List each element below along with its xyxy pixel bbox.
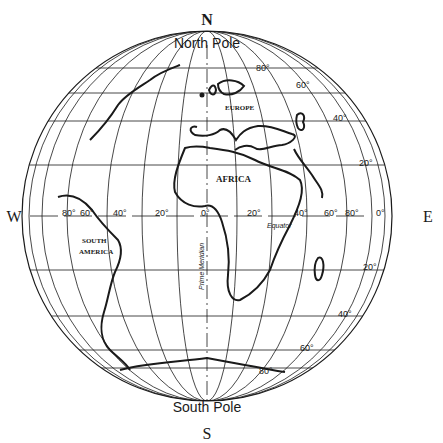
lon-label-60w: 60° [80, 208, 94, 218]
lon-label-0: 0° [201, 208, 210, 218]
compass-east: E [423, 208, 433, 225]
lat-label-60n: 60° [296, 80, 310, 90]
lon-label-0-edge: 0° [376, 208, 385, 218]
lat-label-20n: 20° [359, 158, 373, 168]
lat-label-40s: 40° [338, 309, 352, 319]
lon-label-80e: 80° [345, 208, 359, 218]
lon-label-40e: 40° [294, 208, 308, 218]
lon-label-40w: 40° [113, 208, 127, 218]
europe-label: EUROPE [225, 104, 255, 112]
lat-label-80n: 80° [256, 63, 270, 73]
prime-meridian-label: Prime Meridian [198, 243, 205, 290]
south-pole-label: South Pole [173, 399, 242, 415]
lat-label-20s: 20° [363, 262, 377, 272]
longitude-labels: 80° 60° 40° 20° 0° 20° 40° 60° 80° 0° [62, 208, 385, 218]
label-layer: N S W E North Pole South Pole EUROPE AFR… [0, 0, 443, 443]
north-pole-label: North Pole [174, 35, 240, 51]
africa-label: AFRICA [216, 174, 251, 184]
latitude-labels: 80° 60° 40° 20° 20° 40° 60° 80° [256, 63, 377, 376]
lat-label-80s: 80° [259, 366, 273, 376]
lon-label-80w: 80° [62, 208, 76, 218]
south-america-label-2: AMERICA [79, 248, 113, 256]
lat-label-40n: 40° [333, 113, 347, 123]
compass-south: S [203, 425, 212, 442]
lon-label-20e: 20° [247, 208, 261, 218]
equator-label: Equator [267, 222, 292, 230]
south-america-label-1: SOUTH [82, 237, 107, 245]
lon-label-20w: 20° [155, 208, 169, 218]
lon-label-60e: 60° [324, 208, 338, 218]
compass-north: N [201, 11, 213, 28]
compass-west: W [6, 208, 22, 225]
lat-label-60s: 60° [300, 343, 314, 353]
